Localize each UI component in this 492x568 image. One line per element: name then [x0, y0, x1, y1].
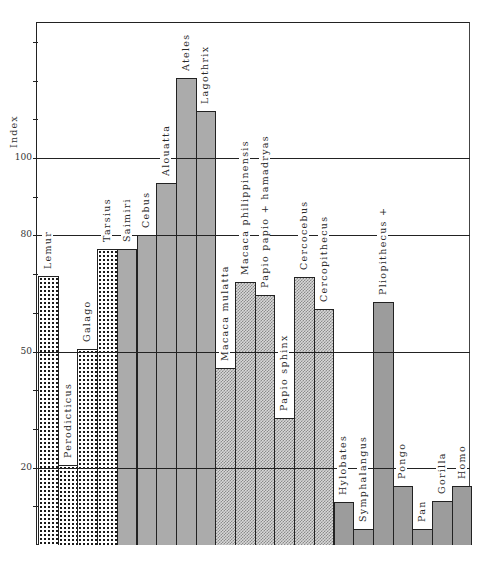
- y-tick-label: 20: [6, 462, 32, 472]
- gridline: [36, 158, 470, 159]
- y-tick: [33, 81, 38, 82]
- bar: [77, 349, 98, 545]
- y-tick: [33, 119, 38, 120]
- bar-label: Macaca mulatta: [219, 262, 230, 364]
- bar-label: Pan: [416, 497, 427, 525]
- bar-label: Cercopithecus: [318, 213, 329, 305]
- bar-label: Symphalangus: [357, 433, 368, 525]
- y-tick: [33, 390, 38, 391]
- bar: [393, 486, 414, 545]
- bar-label: Lemur: [42, 228, 53, 272]
- bar-label: Pliopithecus +: [377, 204, 388, 298]
- bar-label: Ateles: [180, 30, 191, 73]
- y-tick: [33, 42, 38, 43]
- gridline: [36, 352, 470, 353]
- bar-label: Alouatta: [160, 122, 171, 179]
- y-tick-label: 100: [6, 152, 32, 162]
- bar: [353, 529, 374, 545]
- bar-label: Cebus: [140, 189, 151, 231]
- bar: [156, 183, 177, 545]
- bar: [373, 302, 394, 545]
- bar: [294, 277, 315, 545]
- bar-label: Perodicticus: [62, 380, 73, 461]
- bar: [334, 502, 355, 545]
- y-axis-title: Index: [8, 115, 19, 148]
- bar-label: Galago: [81, 298, 92, 346]
- y-tick: [33, 506, 38, 507]
- y-tick: [33, 158, 38, 159]
- bar: [38, 276, 59, 545]
- bar: [97, 249, 118, 545]
- y-tick: [33, 468, 38, 469]
- y-tick-label: 50: [6, 346, 32, 356]
- bar-label: Papio sphinx: [278, 331, 289, 414]
- bar-label: Tarsius: [101, 195, 112, 245]
- bar: [314, 309, 335, 545]
- y-tick: [33, 274, 38, 275]
- bar-label: Cercocebus: [298, 197, 309, 273]
- bar: [412, 529, 433, 545]
- y-tick: [33, 313, 38, 314]
- bar: [196, 111, 217, 545]
- bar-label: Gorilla: [436, 449, 447, 497]
- bar-label: Pongo: [396, 440, 407, 482]
- bar-label: Homo: [456, 442, 467, 482]
- y-tick: [33, 352, 38, 353]
- bar-label: Lagothrix: [199, 43, 210, 107]
- bar-label: Saimiri: [121, 195, 132, 245]
- bar: [432, 501, 453, 545]
- bar: [176, 78, 197, 545]
- bar-label: Papio papio + hamadryas: [259, 132, 270, 291]
- y-tick: [33, 235, 38, 236]
- bar: [137, 235, 158, 545]
- y-tick: [33, 429, 38, 430]
- y-tick: [33, 197, 38, 198]
- bar: [215, 368, 236, 545]
- bar-chart: Index 100805020 LemurPerodicticusGalagoT…: [0, 0, 492, 568]
- bar-label: Macaca philippinensis: [239, 137, 250, 278]
- bar: [274, 418, 295, 545]
- bar: [58, 465, 79, 545]
- y-tick-label: 80: [6, 229, 32, 239]
- bar: [117, 249, 138, 545]
- bar: [235, 282, 256, 545]
- bar: [452, 486, 473, 545]
- bar: [255, 295, 276, 545]
- bar-label: Hylobates: [337, 432, 348, 498]
